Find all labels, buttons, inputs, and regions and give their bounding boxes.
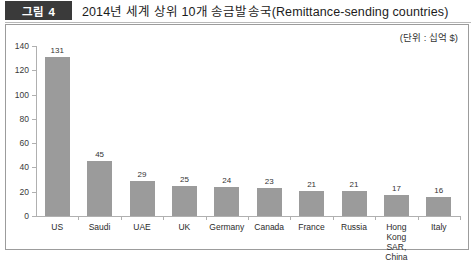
bar-rect[interactable] bbox=[172, 186, 197, 216]
x-tick-label: Hong Kong SAR, China bbox=[375, 222, 417, 262]
bar-value-label: 16 bbox=[434, 187, 443, 195]
bar-value-label: 131 bbox=[51, 47, 64, 55]
plot-area: 020406080100120140 131452925242321211716… bbox=[36, 46, 460, 240]
x-tick-label: Germany bbox=[206, 222, 248, 232]
bar-value-label: 21 bbox=[350, 181, 359, 189]
bar-item[interactable]: 21 bbox=[299, 46, 324, 216]
bar-value-label: 21 bbox=[307, 181, 316, 189]
x-tick-mark bbox=[460, 216, 461, 220]
x-tick-mark bbox=[163, 216, 164, 220]
bar-series: 131452925242321211716 bbox=[36, 46, 460, 216]
x-tick-mark bbox=[206, 216, 207, 220]
y-tick-label: 80 bbox=[20, 114, 29, 124]
bar-value-label: 23 bbox=[265, 178, 274, 186]
bar-item[interactable]: 25 bbox=[172, 46, 197, 216]
bar-rect[interactable] bbox=[384, 195, 409, 216]
bar-item[interactable]: 29 bbox=[130, 46, 155, 216]
x-tick-mark bbox=[248, 216, 249, 220]
x-tick-label: UK bbox=[163, 222, 205, 232]
figure-header: 그림 4 2014년 세계 상위 10개 송금발송국(Remittance-se… bbox=[0, 0, 476, 22]
x-tick-label: Italy bbox=[418, 222, 460, 232]
x-tick-mark bbox=[375, 216, 376, 220]
bar-rect[interactable] bbox=[426, 197, 451, 216]
y-tick-mark bbox=[32, 216, 36, 217]
y-tick-label: 60 bbox=[20, 138, 29, 148]
figure-number-badge: 그림 4 bbox=[5, 1, 72, 20]
bar-value-label: 45 bbox=[95, 151, 104, 159]
x-tick-label: UAE bbox=[121, 222, 163, 232]
bar-rect[interactable] bbox=[214, 187, 239, 216]
bar-item[interactable]: 45 bbox=[87, 46, 112, 216]
unit-label: (단위 : 십억 $) bbox=[400, 30, 458, 44]
title-divider bbox=[5, 22, 471, 23]
y-tick-label: 100 bbox=[15, 90, 29, 100]
bar-item[interactable]: 24 bbox=[214, 46, 239, 216]
bar-item[interactable]: 16 bbox=[426, 46, 451, 216]
y-tick-label: 0 bbox=[24, 211, 29, 221]
bar-rect[interactable] bbox=[257, 188, 282, 216]
bar-value-label: 24 bbox=[222, 177, 231, 185]
y-tick-label: 40 bbox=[20, 162, 29, 172]
y-tick-label: 140 bbox=[15, 41, 29, 51]
chart-frame: (단위 : 십억 $) 020406080100120140 131452925… bbox=[5, 24, 469, 250]
bar-rect[interactable] bbox=[130, 181, 155, 216]
bar-rect[interactable] bbox=[342, 191, 367, 217]
bar-rect[interactable] bbox=[87, 161, 112, 216]
x-tick-label: Canada bbox=[248, 222, 290, 232]
bar-rect[interactable] bbox=[299, 191, 324, 217]
bar-item[interactable]: 131 bbox=[45, 46, 70, 216]
bar-item[interactable]: 17 bbox=[384, 46, 409, 216]
x-tick-label: US bbox=[36, 222, 78, 232]
bar-value-label: 25 bbox=[180, 176, 189, 184]
y-tick-label: 20 bbox=[20, 187, 29, 197]
x-tick-mark bbox=[121, 216, 122, 220]
bar-item[interactable]: 23 bbox=[257, 46, 282, 216]
x-tick-mark bbox=[290, 216, 291, 220]
bar-rect[interactable] bbox=[45, 57, 70, 216]
bar-value-label: 29 bbox=[138, 171, 147, 179]
x-tick-label: Russia bbox=[333, 222, 375, 232]
bar-value-label: 17 bbox=[392, 185, 401, 193]
x-tick-mark bbox=[333, 216, 334, 220]
figure-title: 2014년 세계 상위 10개 송금발송국(Remittance-sending… bbox=[82, 1, 448, 20]
y-tick-label: 120 bbox=[15, 65, 29, 75]
x-tick-label: France bbox=[290, 222, 332, 232]
x-tick-mark bbox=[78, 216, 79, 220]
x-tick-label: Saudi bbox=[78, 222, 120, 232]
x-tick-mark bbox=[418, 216, 419, 220]
bar-item[interactable]: 21 bbox=[342, 46, 367, 216]
